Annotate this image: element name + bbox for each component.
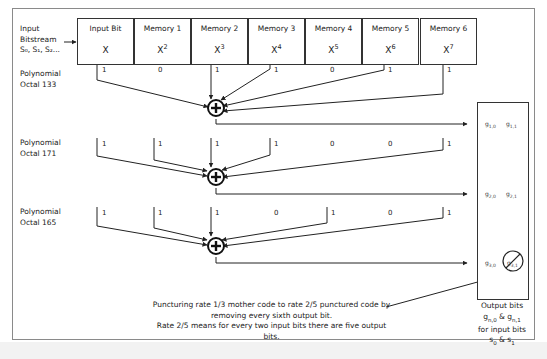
caption-line1: Puncturing rate 1/3 mother code to rate …	[150, 300, 393, 311]
punctured-strike-icon	[501, 249, 525, 273]
register-term: X	[78, 43, 133, 55]
register-term: X6	[363, 43, 418, 55]
register-term: X2	[135, 43, 190, 55]
tap-171-6: 1	[447, 140, 451, 148]
polynomial-label-133: PolynomialOctal 133	[20, 69, 61, 90]
output-g1-0: g1,0	[485, 120, 496, 129]
tap-171-3: 1	[274, 140, 278, 148]
output-caption-line1: Output bits	[468, 301, 536, 312]
output-bits-box: g1,0 g1,1 g2,0 g2,1 g3,0 g3,1	[477, 102, 529, 300]
register-name: Memory 2	[192, 24, 247, 33]
tap-133-3: 1	[274, 66, 278, 74]
polynomial-label-171: PolynomialOctal 171	[20, 138, 61, 159]
tap-171-0: 1	[102, 140, 106, 148]
tap-133-0: 1	[102, 66, 106, 74]
tap-133-2: 1	[215, 66, 219, 74]
output-g1-1: g1,1	[506, 120, 517, 129]
register-name: Memory 6	[421, 24, 476, 33]
tap-165-2: 1	[215, 209, 219, 217]
tap-171-4: 0	[330, 140, 334, 148]
register-term: X7	[421, 43, 476, 55]
register-name: Memory 4	[306, 24, 361, 33]
output-g2-1: g2,1	[506, 190, 517, 199]
xor-adder-2	[208, 169, 224, 185]
input-label-line3: S₀, S₁, S₂...	[20, 45, 60, 56]
tap-171-1: 1	[158, 140, 162, 148]
tap-165-4: 1	[331, 209, 335, 217]
tap-133-4: 0	[330, 66, 334, 74]
register-term: X4	[249, 43, 304, 55]
caption-line2: removing every sixth output bit.	[150, 311, 393, 322]
input-label: Input Bitstream S₀, S₁, S₂...	[20, 24, 60, 56]
register-name: Memory 3	[249, 24, 304, 33]
register-memory-3: Memory 3 X4	[248, 18, 305, 65]
register-term: X3	[192, 43, 247, 55]
tap-165-5: 0	[388, 209, 392, 217]
input-label-line1: Input	[20, 24, 60, 35]
tap-133-1: 0	[158, 66, 162, 74]
xor-adder-3	[208, 238, 224, 254]
register-term: X5	[306, 43, 361, 55]
output-caption-line3: for input bits	[468, 325, 536, 336]
output-caption-line4: s0 & s1	[468, 335, 536, 348]
register-name: Memory 5	[363, 24, 418, 33]
tap-165-3: 0	[274, 209, 278, 217]
caption-line3: Rate 2/5 means for every two input bits …	[150, 321, 393, 342]
register-memory-1: Memory 1 X2	[134, 18, 191, 65]
register-name: Memory 1	[135, 24, 190, 33]
tap-165-0: 1	[102, 209, 106, 217]
output-caption: Output bits gn,0 & gn,1 for input bits s…	[468, 301, 536, 348]
polynomial-label-165: PolynomialOctal 165	[20, 207, 61, 228]
tap-133-6: 1	[447, 66, 451, 74]
register-memory-2: Memory 2 X3	[191, 18, 248, 65]
register-memory-6: Memory 6 X7	[420, 18, 477, 65]
register-input-bit: Input Bit X	[77, 18, 134, 65]
tap-165-1: 1	[158, 209, 162, 217]
tap-171-5: 0	[388, 140, 392, 148]
tap-171-2: 1	[215, 140, 219, 148]
tap-133-5: 1	[388, 66, 392, 74]
register-memory-5: Memory 5 X6	[362, 18, 419, 65]
output-caption-line2: gn,0 & gn,1	[468, 312, 536, 325]
puncturing-caption: Puncturing rate 1/3 mother code to rate …	[150, 300, 393, 342]
tap-165-6: 1	[447, 209, 451, 217]
xor-adder-1	[208, 100, 224, 116]
output-g2-0: g2,0	[485, 190, 496, 199]
register-name: Input Bit	[78, 24, 133, 33]
output-g3-0: g3,0	[485, 259, 496, 268]
register-memory-4: Memory 4 X5	[305, 18, 362, 65]
input-label-line2: Bitstream	[20, 35, 60, 46]
